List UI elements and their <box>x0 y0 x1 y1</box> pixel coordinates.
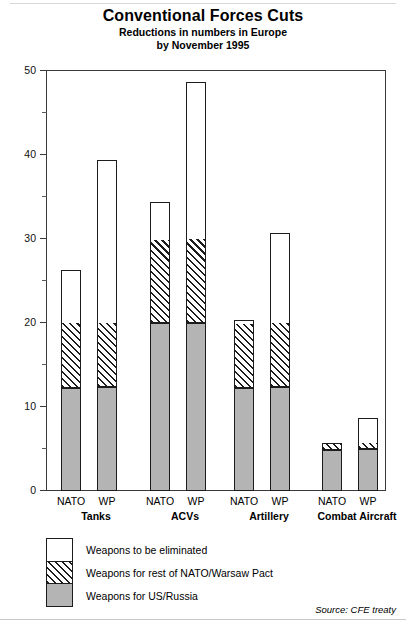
x-label-artillery-wp: WP <box>257 495 303 508</box>
chart-figure: Conventional Forces Cuts Reductions in n… <box>0 0 406 629</box>
segment-eliminated <box>187 83 205 239</box>
bar-tanks-nato <box>61 270 81 491</box>
source-note: Source: CFE treaty <box>46 604 396 615</box>
legend-swatch-eliminated <box>47 539 72 561</box>
segment-us-russia <box>187 323 205 490</box>
segment-eliminated <box>62 271 80 323</box>
chart-subtitle-line2: by November 1995 <box>0 39 406 52</box>
segment-rest-of-alliance <box>271 323 289 387</box>
chart-title: Conventional Forces Cuts <box>0 6 406 26</box>
segment-us-russia <box>151 323 169 490</box>
segment-us-russia <box>62 388 80 490</box>
y-tick-label-50: 50 <box>0 65 36 75</box>
segment-eliminated <box>98 161 116 323</box>
bar-tanks-wp <box>97 160 117 491</box>
legend-label-us-russia: Weapons for US/Russia <box>86 590 198 602</box>
bar-combat-aircraft-nato <box>322 443 342 491</box>
chart-titles: Conventional Forces Cuts Reductions in n… <box>0 6 406 52</box>
segment-rest-of-alliance <box>62 323 80 387</box>
segment-rest-of-alliance <box>187 239 205 323</box>
segment-rest-of-alliance <box>98 323 116 387</box>
x-group-combat-aircraft: Combat Aircraft <box>297 510 406 523</box>
legend-swatch-rest-of-alliance <box>47 561 72 583</box>
segment-rest-of-alliance <box>235 324 253 388</box>
x-label-tanks-wp: WP <box>84 495 130 508</box>
y-tick-label-0: 0 <box>0 485 36 495</box>
bars-layer <box>46 70 386 491</box>
bar-combat-aircraft-wp <box>358 418 378 491</box>
segment-us-russia <box>235 388 253 490</box>
y-tick-label-40: 40 <box>0 149 36 159</box>
legend-label-rest-of-alliance: Weapons for rest of NATO/Warsaw Pact <box>86 567 273 579</box>
top-divider <box>10 3 396 4</box>
segment-eliminated <box>151 203 169 240</box>
segment-eliminated <box>271 234 289 323</box>
legend-swatch-us-russia <box>47 584 72 606</box>
legend-label-eliminated: Weapons to be eliminated <box>86 544 207 556</box>
segment-us-russia <box>98 387 116 490</box>
x-label-acvs-wp: WP <box>173 495 219 508</box>
bar-acvs-wp <box>186 82 206 491</box>
segment-us-russia <box>271 387 289 490</box>
segment-us-russia <box>359 449 377 490</box>
x-axis-labels: NATO WP Tanks NATO WP ACVs NATO WP Artil… <box>46 495 386 535</box>
chart-legend: Weapons to be eliminated Weapons for res… <box>46 538 396 610</box>
y-tick-label-30: 30 <box>0 233 36 243</box>
y-tick-label-20: 20 <box>0 317 36 327</box>
segment-rest-of-alliance <box>151 240 169 323</box>
y-tick-label-10: 10 <box>0 401 36 411</box>
segment-eliminated <box>359 419 377 443</box>
bar-artillery-nato <box>234 320 254 491</box>
bar-acvs-nato <box>150 202 170 491</box>
x-label-combat-aircraft-wp: WP <box>345 495 391 508</box>
bottom-divider <box>0 619 406 620</box>
segment-us-russia <box>323 450 341 490</box>
bar-artillery-wp <box>270 233 290 491</box>
legend-swatch-stack <box>46 538 73 607</box>
chart-subtitle-line1: Reductions in numbers in Europe <box>0 26 406 39</box>
